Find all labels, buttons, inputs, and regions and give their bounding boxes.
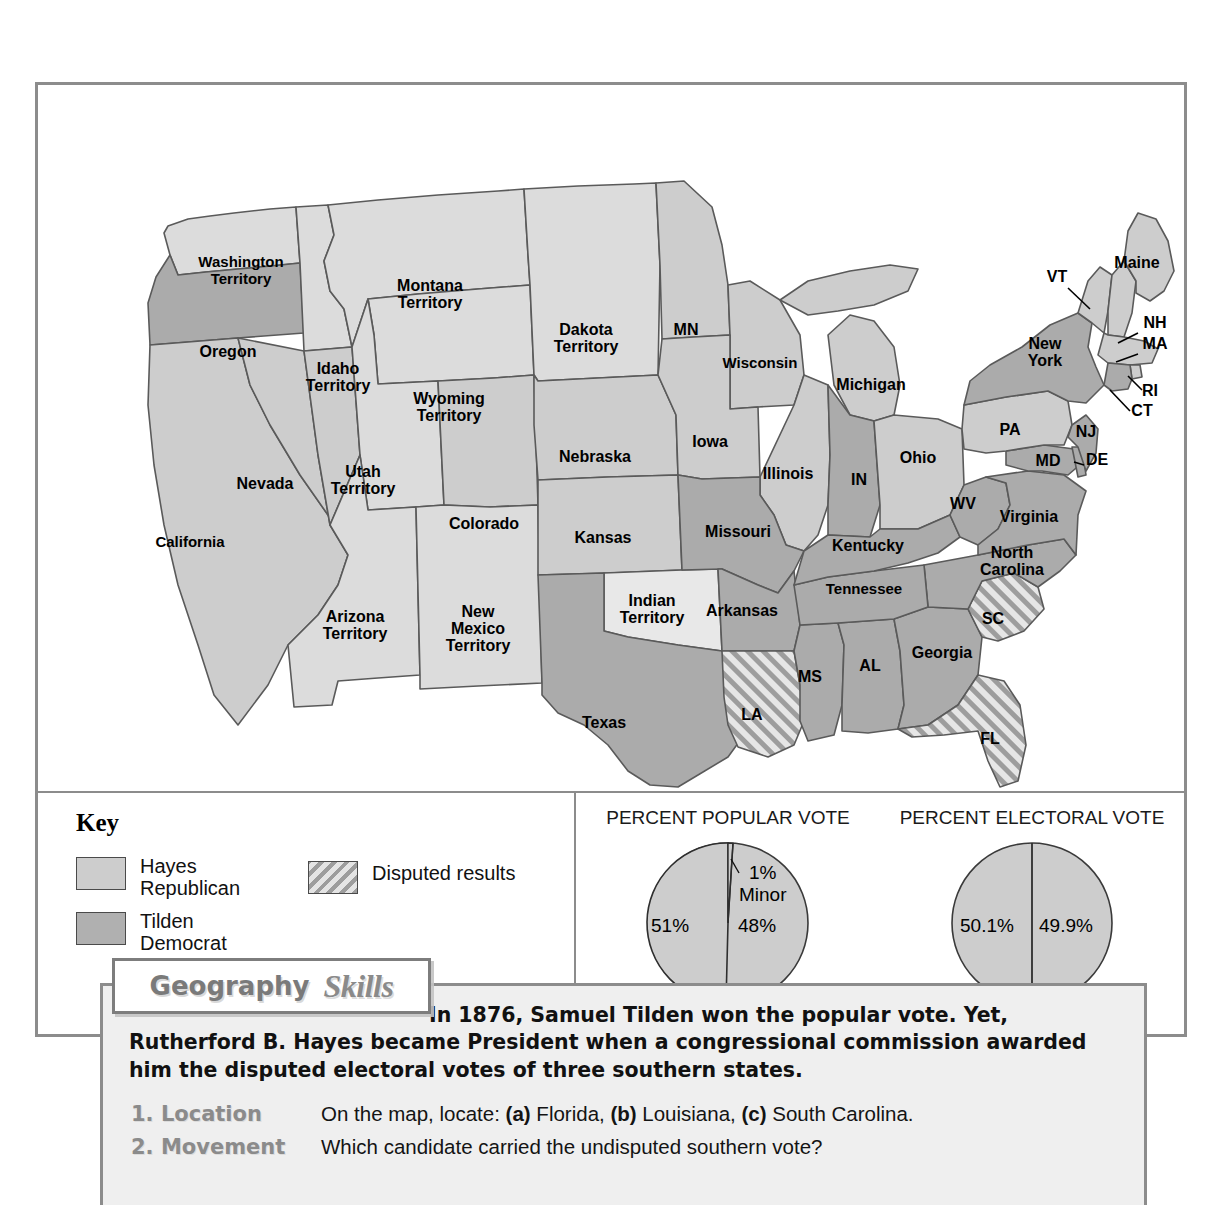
infographic-page: WashingtonTerritoryOregonIdahoTerritoryM… [0,0,1224,1205]
key-heading: Key [76,809,574,837]
cropped-text-above [0,0,1224,2]
geography-word: Geography [150,971,310,1001]
key-entry-hayes: Hayes Republican [76,855,240,900]
electoral-right-value: 49.9% [1039,915,1093,937]
state-wyoming-territory [368,285,534,384]
geography-intro-text: In 1876, Samuel Tilden won the popular v… [129,1002,1129,1084]
question-1-skill: 1. Location [131,1102,321,1126]
key-label-disputed: Disputed results [372,862,515,884]
geography-questions: 1. Location On the map, locate: (a) Flor… [131,1102,1131,1168]
question-1-text: On the map, locate: (a) Florida, (b) Lou… [321,1102,914,1126]
map-label-vermont: VT [1047,268,1068,285]
geography-question-1: 1. Location On the map, locate: (a) Flor… [131,1102,1131,1126]
state-ohio [874,415,964,529]
popular-vote-caption: PERCENT POPULAR VOTE [583,807,873,829]
key-entry-tilden: Tilden Democrat [76,910,240,955]
state-connecticut [1104,363,1132,391]
q1-c-text: South Carolina. [767,1102,914,1125]
state-alabama [838,619,904,733]
popular-left-value: 51% [651,915,689,937]
key-label-tilden: Tilden Democrat [140,910,227,955]
map-label-rhode-island: RI [1142,382,1158,399]
state-dakota-territory [524,183,660,381]
key-column-left: Hayes Republican Tilden Democrat [76,855,240,965]
map-label-new-hampshire: NH [1143,314,1166,331]
map-label-connecticut: CT [1131,402,1153,419]
us-map: WashingtonTerritoryOregonIdahoTerritoryM… [38,85,1184,791]
swatch-tilden-icon [76,912,126,945]
state-nebraska [534,375,678,480]
popular-minor-value: 1% Minor [739,862,787,906]
geography-question-2: 2. Movement Which candidate carried the … [131,1135,1131,1159]
q1-b-marker: (b) [610,1102,636,1125]
state-new-mexico-territory [416,505,542,689]
state-michigan-upper [780,265,918,315]
electoral-left-value: 50.1% [960,915,1014,937]
electoral-vote-caption: PERCENT ELECTORAL VOTE [887,807,1177,829]
leader-ct [1110,390,1130,411]
state-new-york [964,313,1104,405]
swatch-hayes-icon [76,857,126,890]
popular-right-value: 48% [738,915,776,937]
question-2-text: Which candidate carried the undisputed s… [321,1135,822,1159]
map-graphic: WashingtonTerritoryOregonIdahoTerritoryM… [38,85,1184,791]
state-minnesota [656,181,730,339]
state-mississippi [794,623,844,741]
q1-a-marker: (a) [506,1102,531,1125]
state-kansas [538,475,682,575]
q1-a-text: Florida, [531,1102,611,1125]
key-column-right: Disputed results [308,859,515,904]
swatch-disputed-icon [308,861,358,894]
geography-skills-banner: Geography Skills [112,958,431,1014]
map-frame: WashingtonTerritoryOregonIdahoTerritoryM… [35,82,1187,1037]
question-2-skill: 2. Movement [131,1135,321,1159]
key-label-hayes: Hayes Republican [140,855,240,900]
q1-b-text: Louisiana, [637,1102,742,1125]
key-entry-disputed: Disputed results [308,859,515,894]
skills-word: Skills [323,968,393,1005]
geography-skills-panel: Geography Skills In 1876, Samuel Tilden … [100,983,1147,1205]
state-colorado [438,375,538,507]
q1-pre: On the map, locate: [321,1102,506,1125]
q1-c-marker: (c) [741,1102,766,1125]
